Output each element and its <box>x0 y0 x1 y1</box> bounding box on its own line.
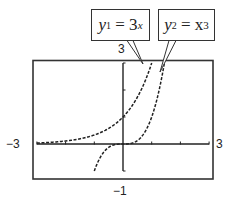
y1-eq: = 3 <box>111 15 138 35</box>
y-min-label: −1 <box>113 184 127 198</box>
y2-var: y <box>164 15 172 35</box>
y2-eq: = x <box>177 15 204 35</box>
y2-curve <box>94 63 164 171</box>
x-max-label: 3 <box>216 137 223 151</box>
y1-callout: y1 = 3x <box>91 9 150 41</box>
curves <box>37 63 164 171</box>
y2-sup: 3 <box>203 19 209 31</box>
callout-pointers <box>127 41 176 73</box>
y1-curve <box>37 63 152 143</box>
y1-sup: x <box>138 19 143 31</box>
y2-callout-pointer <box>160 41 176 73</box>
y-max-label: 3 <box>118 42 125 56</box>
y1-var: y <box>98 15 106 35</box>
y2-callout: y2 = x3 <box>158 9 215 41</box>
x-min-label: −3 <box>6 137 20 151</box>
